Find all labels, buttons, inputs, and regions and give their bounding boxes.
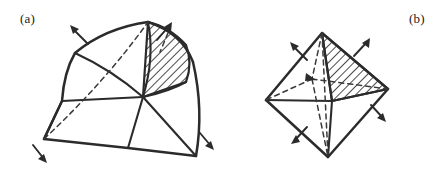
arrow-lower-right-b (371, 105, 386, 122)
arrow-upper-right-b (354, 38, 370, 56)
panel-label-b: (b) (409, 11, 425, 27)
panel-b-drawing (266, 33, 388, 157)
arrow-lower-right-a (200, 133, 214, 150)
figure-container: (a) (b) (0, 0, 448, 171)
edge-left-front-b (266, 100, 332, 101)
panel-a-drawing (33, 22, 214, 163)
arrow-upper-left-b (290, 42, 307, 60)
arrow-lower-left-a (33, 145, 47, 163)
panel-label-a: (a) (20, 11, 35, 27)
arrow-upper-left-a (70, 25, 88, 44)
figure-drawing (0, 0, 448, 171)
